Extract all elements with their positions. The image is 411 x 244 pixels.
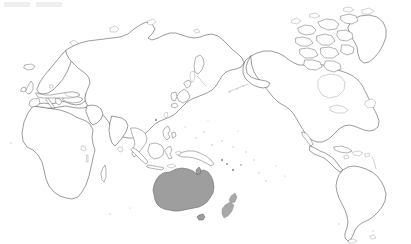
world-map-svg — [0, 0, 411, 244]
island-micronesia-a — [211, 144, 213, 146]
island-fiji — [240, 164, 242, 166]
island-hainan — [155, 119, 157, 121]
island-pacific-a — [184, 126, 185, 127]
island-hawaii-w — [237, 130, 238, 131]
island-palau — [195, 137, 196, 138]
world-map-figure — [0, 0, 411, 244]
island-atlantic-c — [372, 230, 373, 231]
scan-artifact-b — [36, 2, 62, 7]
island-micronesia-b — [221, 140, 222, 141]
island-indian-ocean-b — [129, 207, 130, 208]
island-mariana — [203, 131, 204, 132]
island-micronesia-c — [232, 146, 233, 147]
inland-lake-tanganyika — [87, 155, 88, 162]
island-pacific-c — [275, 165, 276, 166]
scan-artifact-a — [4, 2, 30, 7]
island-indian-ocean-a — [109, 213, 110, 214]
island-tonga — [265, 180, 266, 181]
island-vanuatu — [226, 163, 228, 165]
island-solomon — [221, 159, 223, 161]
island-marshall — [245, 151, 246, 152]
island-aleutian-b — [236, 88, 237, 89]
island-samoa — [258, 172, 259, 173]
island-kiribati — [253, 159, 254, 160]
island-pacific-d — [284, 175, 285, 176]
landmass-baltic-islands — [50, 85, 53, 88]
island-atlantic-b — [338, 223, 339, 224]
island-aleutian-c — [242, 85, 243, 86]
island-new-caledonia — [232, 169, 234, 171]
island-atlantic-a — [10, 142, 11, 143]
island-pacific-b — [207, 119, 208, 120]
island-aleutian-a — [229, 91, 230, 92]
